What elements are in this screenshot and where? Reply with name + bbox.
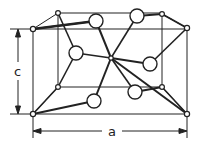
crystal-structure-diagram: c a (0, 0, 199, 149)
large-atom (143, 57, 157, 71)
small-atom (30, 111, 35, 116)
small-atom (160, 85, 165, 90)
small-atom (184, 111, 189, 116)
large-atom (128, 85, 142, 99)
label-c: c (14, 64, 21, 79)
large-atom (69, 46, 83, 60)
large-atom (130, 9, 144, 23)
arrow-left-icon (33, 129, 41, 134)
small-atom (56, 11, 61, 16)
arrow-up-icon (16, 29, 21, 37)
large-atom (89, 14, 103, 28)
label-a: a (108, 124, 116, 139)
large-atom (87, 94, 101, 108)
small-atom (56, 85, 61, 90)
small-atom (30, 26, 35, 31)
small-atom (160, 12, 165, 17)
arrow-down-icon (16, 106, 21, 114)
center-atom (109, 56, 113, 60)
bonds (33, 13, 187, 114)
front-face (33, 29, 187, 114)
arrow-right-icon (179, 129, 187, 134)
small-atom (184, 25, 189, 30)
